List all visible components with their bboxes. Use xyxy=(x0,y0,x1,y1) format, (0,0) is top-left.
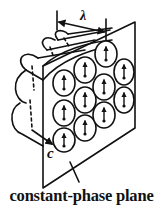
caption-constant-phase-plane: constant-phase plane xyxy=(0,186,163,206)
direction-label: c xyxy=(47,145,54,161)
wavelength-label: λ xyxy=(79,8,86,23)
cross-section-circles xyxy=(53,41,134,152)
cylinder-plane-diagram: λ c xyxy=(0,0,163,211)
